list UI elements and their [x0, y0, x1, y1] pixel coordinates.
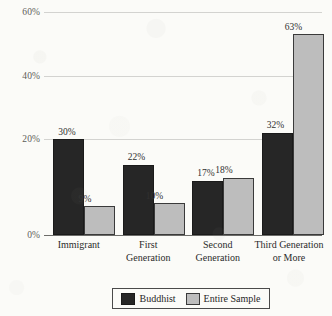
- x-axis-label-line: Generation: [183, 252, 253, 265]
- x-axis-label-line: or More: [249, 252, 329, 265]
- chart-legend: Buddhist Entire Sample: [112, 288, 270, 309]
- bar-group-first-generation: 22% 10%: [114, 12, 184, 235]
- entire-sample-swatch-icon: [186, 293, 200, 305]
- bar-group-second-generation: 17% 18%: [183, 12, 253, 235]
- bar-value-label: 32%: [256, 120, 296, 130]
- bar-value-label: 63%: [274, 22, 314, 32]
- bar-value-label: 30%: [47, 127, 87, 137]
- bar-group-immigrant: 30% 9%: [44, 12, 114, 235]
- x-axis-category-labels: Immigrant First Generation Second Genera…: [44, 239, 322, 277]
- legend-entry-buddhist[interactable]: Buddhist: [121, 293, 175, 305]
- x-axis-label-line: Immigrant: [44, 239, 114, 252]
- x-axis-label-line: Third Generation: [249, 239, 329, 252]
- bar-value-label: 10%: [135, 191, 175, 201]
- bar-buddhist-second-generation[interactable]: [192, 181, 223, 235]
- bar-value-label: 18%: [204, 165, 244, 175]
- x-axis-label-immigrant: Immigrant: [44, 239, 114, 252]
- x-axis-label-line: First: [114, 239, 184, 252]
- x-axis-label-first-generation: First Generation: [114, 239, 184, 264]
- y-axis-tick-label: 0%: [0, 230, 40, 240]
- y-axis: 60% 40% 20% 0%: [0, 12, 40, 235]
- bar-group-third-generation-or-more: 32% 63%: [253, 12, 323, 235]
- bar-buddhist-immigrant[interactable]: [53, 139, 84, 235]
- x-axis-label-line: Second: [183, 239, 253, 252]
- bar-entire-sample-immigrant[interactable]: [84, 206, 115, 235]
- x-axis-label-second-generation: Second Generation: [183, 239, 253, 264]
- legend-entry-entire-sample[interactable]: Entire Sample: [186, 293, 261, 305]
- bar-chart: 60% 40% 20% 0% 30% 9% 22% 10% 17% 18%: [0, 0, 332, 316]
- y-axis-tick-label: 40%: [0, 71, 40, 81]
- plot-area: 30% 9% 22% 10% 17% 18% 32% 63%: [44, 12, 322, 235]
- bar-entire-sample-third-generation-or-more[interactable]: [293, 34, 324, 235]
- y-axis-tick-label: 20%: [0, 134, 40, 144]
- bar-entire-sample-first-generation[interactable]: [154, 203, 185, 235]
- bar-value-label: 9%: [65, 194, 105, 204]
- gridline-0-baseline: [44, 235, 322, 236]
- x-axis-label-third-generation-or-more: Third Generation or More: [249, 239, 329, 264]
- x-axis-label-line: Generation: [114, 252, 184, 265]
- bar-value-label: 22%: [117, 152, 157, 162]
- y-axis-tick-label: 60%: [0, 7, 40, 17]
- legend-label-buddhist: Buddhist: [139, 293, 175, 304]
- legend-label-entire-sample: Entire Sample: [204, 293, 261, 304]
- buddhist-swatch-icon: [121, 293, 135, 305]
- bar-buddhist-third-generation-or-more[interactable]: [262, 133, 293, 235]
- bar-entire-sample-second-generation[interactable]: [223, 178, 254, 235]
